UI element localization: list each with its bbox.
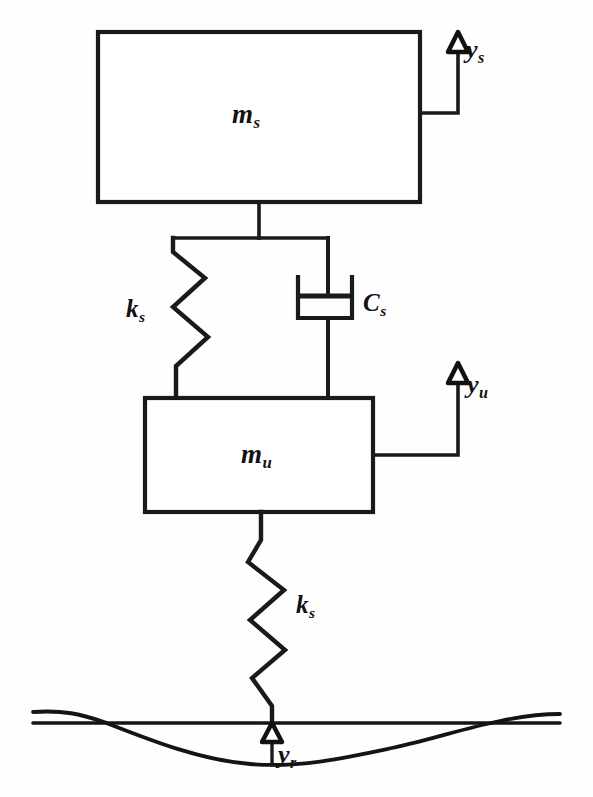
schematic-diagram: ms mu ks ks Cs ys yu yr	[0, 0, 593, 797]
suspension-spring-label: ks	[126, 296, 145, 324]
unsprung-displacement-leader	[373, 383, 458, 455]
unsprung-displacement-arrow-icon	[448, 363, 468, 383]
suspension-spring	[173, 238, 208, 398]
sprung-displacement-leader	[420, 52, 458, 113]
schematic-canvas	[0, 0, 593, 797]
unsprung-displacement-label: yu	[467, 372, 488, 401]
unsprung-mass-label: mu	[241, 441, 272, 472]
tire-spring	[248, 512, 285, 723]
suspension-damper-label: Cs	[363, 290, 386, 318]
tire-spring-label: ks	[296, 592, 315, 620]
sprung-displacement-arrow-icon	[448, 32, 468, 52]
sprung-displacement-label: ys	[466, 37, 484, 66]
road-displacement-label: yr	[278, 742, 296, 771]
road-surface-profile	[33, 711, 560, 764]
sprung-mass-label: ms	[232, 101, 260, 132]
